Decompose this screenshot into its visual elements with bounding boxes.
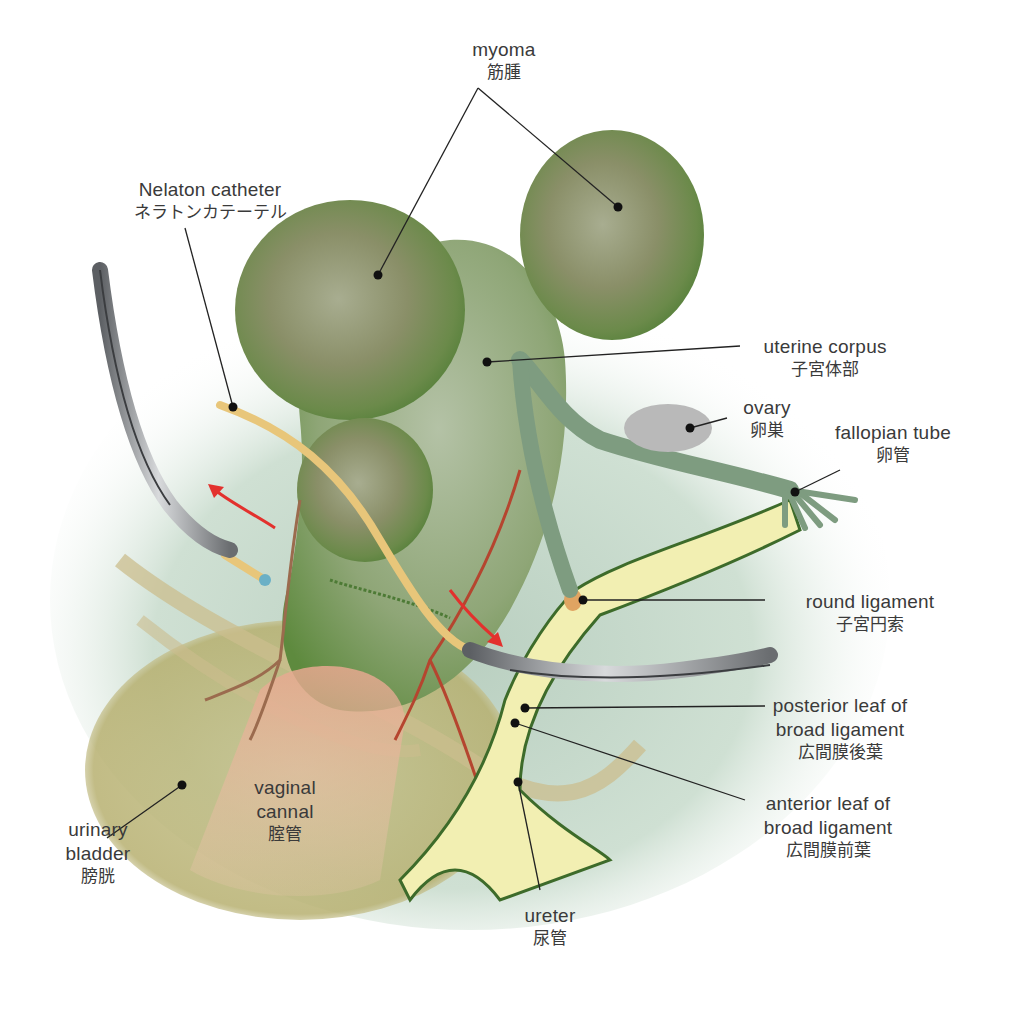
anatomy-diagram: myoma 筋腫 Nelaton catheter ネラトンカテーテル uter… (0, 0, 1011, 1018)
label-myoma-ja: 筋腫 (444, 62, 564, 84)
label-nelaton-catheter-ja: ネラトンカテーテル (120, 202, 300, 224)
label-anterior-leaf: anterior leaf of broad ligament 広間膜前葉 (748, 792, 908, 862)
label-urinary-bladder-ja: 膀胱 (48, 866, 148, 888)
myoma-right-shape (520, 130, 704, 340)
label-posterior-leaf-en2: broad ligament (760, 718, 920, 742)
myoma-small-shape (297, 418, 433, 562)
label-urinary-bladder: urinary bladder 膀胱 (48, 818, 148, 888)
label-round-ligament: round ligament 子宮円索 (790, 590, 950, 636)
label-uterine-corpus: uterine corpus 子宮体部 (745, 335, 905, 381)
label-vaginal-canal-en2: cannal (235, 800, 335, 824)
label-anterior-leaf-en1: anterior leaf of (748, 792, 908, 816)
label-round-ligament-ja: 子宮円索 (790, 614, 950, 636)
label-urinary-bladder-en2: bladder (48, 842, 148, 866)
illustration (0, 0, 1011, 1018)
label-fallopian-tube: fallopian tube 卵管 (818, 421, 968, 467)
label-uterine-corpus-en: uterine corpus (745, 335, 905, 359)
label-fallopian-tube-en: fallopian tube (818, 421, 968, 445)
label-anterior-leaf-en2: broad ligament (748, 816, 908, 840)
label-nelaton-catheter: Nelaton catheter ネラトンカテーテル (120, 178, 300, 224)
label-posterior-leaf-en1: posterior leaf of (760, 694, 920, 718)
label-myoma-en: myoma (444, 38, 564, 62)
label-ovary-ja: 卵巣 (727, 420, 807, 442)
label-ovary-en: ovary (727, 396, 807, 420)
label-ureter-ja: 尿管 (510, 928, 590, 950)
label-myoma: myoma 筋腫 (444, 38, 564, 84)
label-anterior-leaf-ja: 広間膜前葉 (748, 840, 908, 862)
ovary-shape (624, 404, 712, 452)
label-ovary: ovary 卵巣 (727, 396, 807, 442)
label-urinary-bladder-en1: urinary (48, 818, 148, 842)
label-uterine-corpus-ja: 子宮体部 (745, 359, 905, 381)
label-round-ligament-en: round ligament (790, 590, 950, 614)
label-posterior-leaf: posterior leaf of broad ligament 広間膜後葉 (760, 694, 920, 764)
label-vaginal-canal-ja: 腟管 (235, 824, 335, 846)
label-posterior-leaf-ja: 広間膜後葉 (760, 742, 920, 764)
label-vaginal-canal: vaginal cannal 腟管 (235, 776, 335, 846)
myoma-left-shape (235, 200, 465, 420)
label-ureter: ureter 尿管 (510, 904, 590, 950)
label-fallopian-tube-ja: 卵管 (818, 445, 968, 467)
label-vaginal-canal-en1: vaginal (235, 776, 335, 800)
label-ureter-en: ureter (510, 904, 590, 928)
label-nelaton-catheter-en: Nelaton catheter (120, 178, 300, 202)
